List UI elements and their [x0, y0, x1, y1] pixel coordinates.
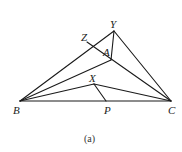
- label-P: P: [103, 104, 111, 116]
- label-Y: Y: [110, 18, 118, 30]
- segments: [20, 31, 171, 101]
- segment-BA: [20, 60, 111, 101]
- label-A: A: [102, 46, 110, 58]
- label-C: C: [168, 104, 176, 116]
- segment-YA: [111, 31, 114, 60]
- geometry-diagram: B P C Y Z A X (a): [0, 0, 182, 152]
- label-B: B: [13, 104, 20, 116]
- label-X: X: [88, 72, 97, 84]
- label-Z: Z: [81, 31, 88, 43]
- figure-caption: (a): [84, 133, 95, 145]
